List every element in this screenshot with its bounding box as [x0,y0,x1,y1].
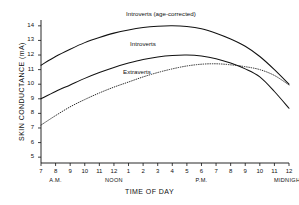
y-tick-label: 8 [20,109,34,115]
y-tick-label: 10 [20,80,34,86]
x-period-label: MIDNIGHT [269,177,299,183]
x-tick-label: 8 [225,168,237,174]
x-axis-title: TIME OF DAY [0,188,299,195]
x-tick-label: 11 [268,168,280,174]
y-tick-label: 9 [20,95,34,101]
y-tick-label: 5 [20,153,34,159]
series-label-extraverts: Extraverts [123,68,151,75]
x-tick-label: 2 [137,168,149,174]
x-tick-label: 9 [239,168,251,174]
x-tick-label: 6 [195,168,207,174]
x-tick-label: 9 [64,168,76,174]
y-axis-title: SKIN CONDUCTANCE (mA) [18,27,25,157]
y-tick-label: 13 [20,36,34,42]
x-tick-label: 1 [123,168,135,174]
y-tick-label: 12 [20,51,34,57]
series-curve-1 [41,55,289,108]
series-paths [41,26,289,125]
y-tick-label: 7 [20,124,34,130]
x-tick-label: 7 [35,168,47,174]
series-curve-0 [41,26,289,84]
axis-lines [41,20,289,163]
x-tick-label: 8 [50,168,62,174]
x-period-label: P.M. [181,177,221,183]
y-tick-label: 11 [20,66,34,72]
x-tick-label: 7 [210,168,222,174]
series-curve-2 [41,64,289,125]
x-tick-label: 12 [108,168,120,174]
x-tick-label: 12 [283,168,295,174]
y-tick-label: 14 [20,22,34,28]
x-tick-label: 4 [166,168,178,174]
x-tick-label: 10 [79,168,91,174]
series-label-introverts-age-corrected: Introverts (age-corrected) [126,10,196,17]
x-period-label: A.M. [36,177,76,183]
x-tick-label: 3 [152,168,164,174]
x-period-label: NOON [94,177,134,183]
x-tick-label: 5 [181,168,193,174]
y-tick-label: 6 [20,139,34,145]
x-tick-label: 11 [93,168,105,174]
plot-area [0,0,299,205]
series-label-introverts: Introverts [130,40,156,47]
x-tick-label: 10 [254,168,266,174]
chart-figure: SKIN CONDUCTANCE (mA) TIME OF DAY 141312… [0,0,299,205]
